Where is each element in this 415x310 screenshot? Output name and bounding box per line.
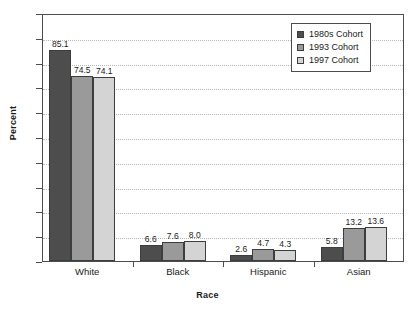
x-tick-label: Asian [314, 266, 405, 277]
bar-value-label: 74.1 [87, 67, 121, 76]
bar [49, 50, 71, 261]
bar [71, 76, 93, 261]
bar [230, 255, 252, 261]
legend-item[interactable]: 1997 Cohort [297, 54, 363, 67]
x-tick-label: White [42, 266, 133, 277]
y-tick-mark [36, 262, 42, 263]
x-tick-mark [223, 262, 224, 267]
bar [343, 228, 365, 261]
bar [140, 245, 162, 261]
bar [162, 242, 184, 261]
legend: 1980s Cohort1993 Cohort1997 Cohort [291, 23, 371, 72]
legend-swatch-icon [297, 44, 304, 51]
x-tick-mark [314, 262, 315, 267]
legend-item[interactable]: 1993 Cohort [297, 41, 363, 54]
legend-item-label: 1980s Cohort [309, 30, 363, 39]
legend-item-label: 1997 Cohort [309, 56, 359, 65]
x-tick-label: Hispanic [223, 266, 314, 277]
bar-value-label: 8.0 [178, 231, 212, 240]
legend-swatch-icon [297, 31, 304, 38]
bar-value-label: 4.3 [268, 240, 302, 249]
bar [274, 250, 296, 261]
legend-item-label: 1993 Cohort [309, 43, 359, 52]
y-axis-title: Percent [8, 88, 18, 158]
x-tick-mark [133, 262, 134, 267]
legend-item[interactable]: 1980s Cohort [297, 28, 363, 41]
x-axis-title: Race [0, 290, 415, 300]
bar [365, 227, 387, 261]
x-tick-label: Black [133, 266, 224, 277]
bar [184, 241, 206, 261]
bar [321, 247, 343, 261]
legend-swatch-icon [297, 57, 304, 64]
bar-value-label: 85.1 [43, 40, 77, 49]
bar [93, 77, 115, 261]
bar-value-label: 13.6 [359, 217, 393, 226]
bar [252, 249, 274, 261]
bar-chart: Percent Race 0102030405060708090100 85.1… [0, 0, 415, 310]
